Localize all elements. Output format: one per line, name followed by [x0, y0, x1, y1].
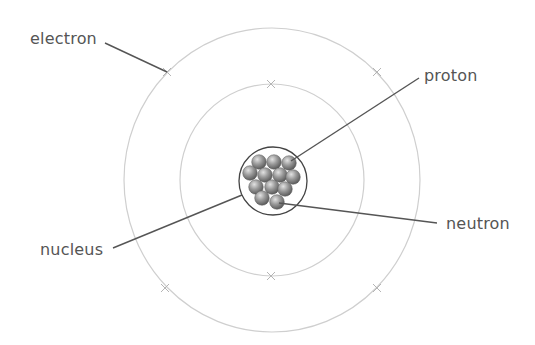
label-electron: electron [30, 31, 97, 47]
neutron-leader [279, 203, 437, 223]
nucleon-particle [255, 191, 270, 206]
atom-diagram [0, 0, 535, 345]
nucleus-leader [113, 195, 242, 248]
nucleon-particle [270, 195, 285, 210]
label-proton: proton [424, 68, 478, 84]
electron-mark-icon [373, 68, 381, 76]
nucleon-particle [282, 156, 297, 171]
nucleon-particle [265, 180, 280, 195]
proton-leader [291, 78, 419, 161]
label-nucleus: nucleus [40, 242, 103, 258]
nucleon-particle [278, 182, 293, 197]
leader-lines [105, 43, 437, 248]
label-neutron: neutron [446, 216, 510, 232]
nucleon-particle [243, 166, 258, 181]
nucleon-particle [267, 155, 282, 170]
electron-mark-icon [373, 284, 381, 292]
electron-leader [105, 43, 167, 72]
